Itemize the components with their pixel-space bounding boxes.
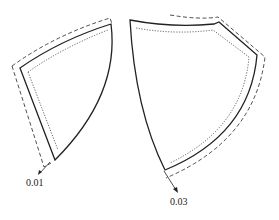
left-piece bbox=[12, 18, 112, 175]
right-piece-outer-dashed bbox=[166, 15, 265, 178]
left-piece-annotation: 0.01 bbox=[26, 177, 44, 188]
left-arrow-head bbox=[38, 170, 42, 175]
right-piece-annotation: 0.03 bbox=[170, 196, 188, 207]
right-arrow-line bbox=[164, 171, 176, 190]
left-piece-outer-dashed bbox=[12, 18, 112, 167]
right-arrow-head bbox=[173, 187, 178, 193]
left-arrow-line bbox=[40, 162, 50, 173]
left-piece-solid bbox=[20, 24, 112, 160]
right-piece bbox=[130, 15, 265, 193]
right-piece-solid bbox=[130, 20, 257, 170]
